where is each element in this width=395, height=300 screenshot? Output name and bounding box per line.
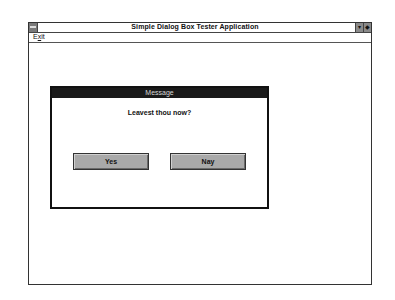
maximize-icon: ◆ [365,24,370,30]
dialog-message: Leavest thou now? [52,109,267,116]
minimize-button[interactable]: ▾ [355,23,363,32]
title-bar: Simple Dialog Box Tester Application ▾ ◆ [29,23,371,33]
minimize-icon: ▾ [358,24,361,30]
nay-button[interactable]: Nay [170,153,246,170]
yes-button[interactable]: Yes [73,153,149,170]
maximize-button[interactable]: ◆ [363,23,371,32]
system-menu-button[interactable] [29,23,38,32]
system-menu-icon [30,26,36,28]
window-title: Simple Dialog Box Tester Application [39,22,351,32]
menu-exit[interactable]: Exit [33,32,45,42]
message-dialog: Message Leavest thou now? Yes Nay [50,86,269,209]
dialog-title: Message [52,88,267,98]
menu-bar: Exit [29,33,371,43]
